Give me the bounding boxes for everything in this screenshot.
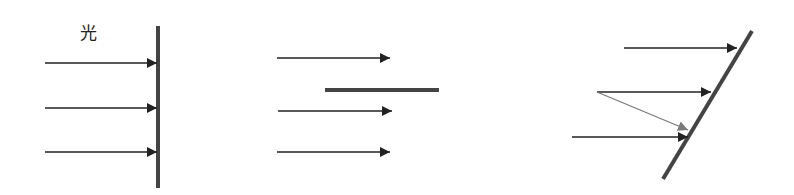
light-incidence-diagram [0, 0, 794, 195]
panel-perpendicular-surface [45, 26, 158, 188]
panel-inclined-surface [572, 31, 752, 179]
surface-bar [663, 31, 752, 179]
panel-parallel-surface [277, 58, 439, 152]
reflected-ray-arrow [597, 92, 688, 130]
